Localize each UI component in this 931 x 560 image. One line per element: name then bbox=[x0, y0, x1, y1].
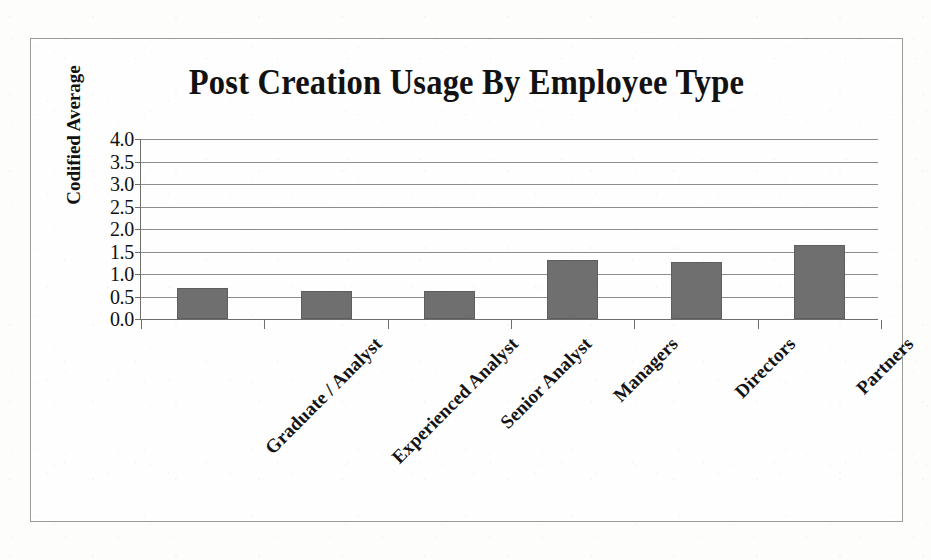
gridline bbox=[141, 297, 878, 298]
gridline bbox=[141, 207, 878, 208]
bar[interactable] bbox=[177, 288, 228, 319]
bar[interactable] bbox=[794, 245, 845, 319]
x-tick-mark bbox=[881, 320, 882, 329]
gridline bbox=[141, 252, 878, 253]
gridline bbox=[141, 184, 878, 185]
x-axis-category-label: Managers bbox=[609, 333, 683, 407]
y-tick-label: 1.5 bbox=[110, 240, 134, 263]
x-axis-category-label: Experienced Analyst bbox=[388, 333, 523, 468]
y-tick-label: 0.0 bbox=[110, 308, 134, 331]
gridline bbox=[141, 139, 878, 140]
bar[interactable] bbox=[671, 262, 722, 319]
x-axis-category-label: Graduate / Analyst bbox=[260, 333, 386, 459]
gridline bbox=[141, 229, 878, 230]
x-axis-category-label: Partners bbox=[852, 333, 918, 399]
chart-title: Post Creation Usage By Employee Type bbox=[61, 65, 871, 100]
y-axis-title: Codified Average bbox=[63, 35, 85, 235]
plot-area: 4.03.53.02.52.01.51.00.50.0 bbox=[141, 139, 881, 319]
y-tick-label: 2.5 bbox=[110, 195, 134, 218]
y-tick-label: 3.0 bbox=[110, 173, 134, 196]
bar[interactable] bbox=[301, 291, 352, 319]
x-tick-mark bbox=[388, 320, 389, 329]
bar[interactable] bbox=[424, 291, 475, 319]
x-tick-mark bbox=[634, 320, 635, 329]
y-tick-label: 0.5 bbox=[110, 285, 134, 308]
x-tick-mark bbox=[141, 320, 142, 329]
gridline bbox=[141, 274, 878, 275]
y-tick-label: 2.0 bbox=[110, 218, 134, 241]
x-tick-mark bbox=[758, 320, 759, 329]
y-tick-label: 4.0 bbox=[110, 128, 134, 151]
x-tick-mark bbox=[264, 320, 265, 329]
y-tick-label: 3.5 bbox=[110, 150, 134, 173]
chart-frame: Post Creation Usage By Employee Type Cod… bbox=[30, 38, 903, 522]
y-tick-label: 1.0 bbox=[110, 263, 134, 286]
x-tick-mark bbox=[511, 320, 512, 329]
gridline bbox=[141, 319, 878, 320]
x-axis-category-label: Directors bbox=[730, 333, 800, 403]
bar[interactable] bbox=[547, 260, 598, 319]
gridline bbox=[141, 162, 878, 163]
